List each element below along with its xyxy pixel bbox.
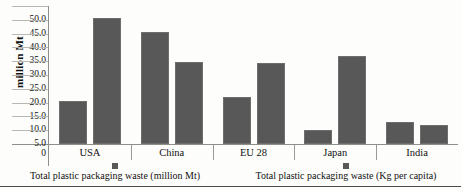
footer-rule xyxy=(0,186,461,187)
y-axis-zero-label: 0 xyxy=(12,146,46,160)
y-gridline xyxy=(12,103,48,104)
x-category-label: USA xyxy=(49,146,131,160)
x-category-label: China xyxy=(131,146,213,160)
legend-entry-series-2: Total plastic packaging waste (Kg per ca… xyxy=(231,163,461,182)
x-category-label: Japan xyxy=(294,146,376,160)
bars-layer xyxy=(49,0,458,144)
bar xyxy=(59,101,87,144)
y-gridline xyxy=(12,34,48,35)
bar xyxy=(420,125,448,144)
y-gridline xyxy=(12,61,48,62)
bar xyxy=(175,62,203,144)
x-axis-line xyxy=(12,144,458,145)
bar xyxy=(223,97,251,144)
legend-swatch-icon xyxy=(112,163,118,169)
legend-swatch-icon xyxy=(343,163,349,169)
bar xyxy=(304,130,332,144)
bar xyxy=(386,122,414,144)
y-gridline xyxy=(12,130,48,131)
x-category-label: EU 28 xyxy=(213,146,295,160)
y-gridline xyxy=(12,116,48,117)
x-axis-category-labels: USAChinaEU 28JapanIndia xyxy=(49,146,458,161)
bar-chart: million Mt 50.045.040.035.030.025.020.01… xyxy=(0,0,461,190)
legend-label: Total plastic packaging waste (million M… xyxy=(0,170,230,182)
bar xyxy=(141,32,169,144)
y-gridline xyxy=(12,47,48,48)
bar xyxy=(338,56,366,144)
legend-label: Total plastic packaging waste (Kg per ca… xyxy=(231,170,461,182)
bar xyxy=(93,18,121,144)
legend-entry-series-1: Total plastic packaging waste (million M… xyxy=(0,163,230,182)
y-gridline xyxy=(12,75,48,76)
y-gridline xyxy=(12,20,48,21)
y-gridline xyxy=(12,89,48,90)
x-category-label: India xyxy=(376,146,458,160)
bar xyxy=(257,63,285,144)
